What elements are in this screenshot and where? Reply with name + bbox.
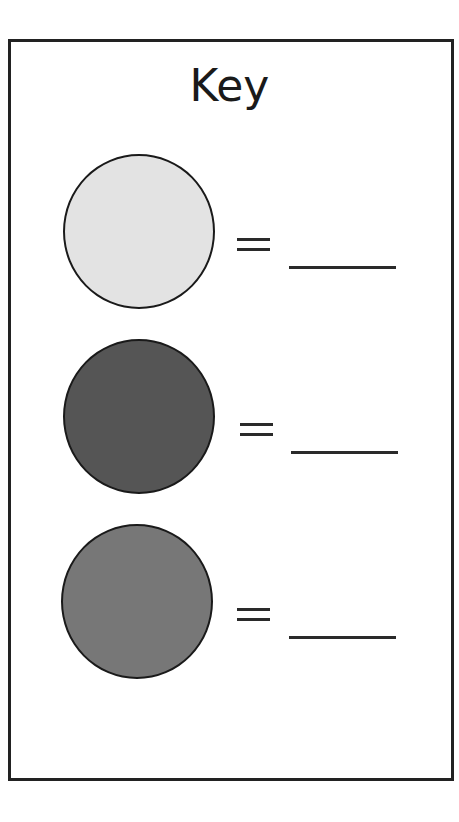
- swatch-circle-dark: [63, 339, 215, 494]
- equals-sign: [237, 238, 270, 251]
- key-title: Key: [0, 56, 459, 116]
- equals-sign: [237, 608, 270, 621]
- equals-bar-top: [237, 238, 270, 241]
- answer-blank-line[interactable]: [291, 451, 398, 454]
- equals-bar-bottom: [240, 433, 273, 436]
- entry-value[interactable]: [289, 613, 396, 635]
- swatch-circle-light: [63, 154, 215, 309]
- equals-bar-bottom: [237, 618, 270, 621]
- answer-blank-line[interactable]: [289, 266, 396, 269]
- entry-value[interactable]: [289, 244, 396, 266]
- entry-value[interactable]: [291, 428, 398, 450]
- equals-bar-top: [240, 423, 273, 426]
- answer-blank-line[interactable]: [289, 636, 396, 639]
- equals-bar-top: [237, 608, 270, 611]
- equals-bar-bottom: [237, 248, 270, 251]
- swatch-circle-medium: [61, 524, 213, 679]
- equals-sign: [240, 423, 273, 436]
